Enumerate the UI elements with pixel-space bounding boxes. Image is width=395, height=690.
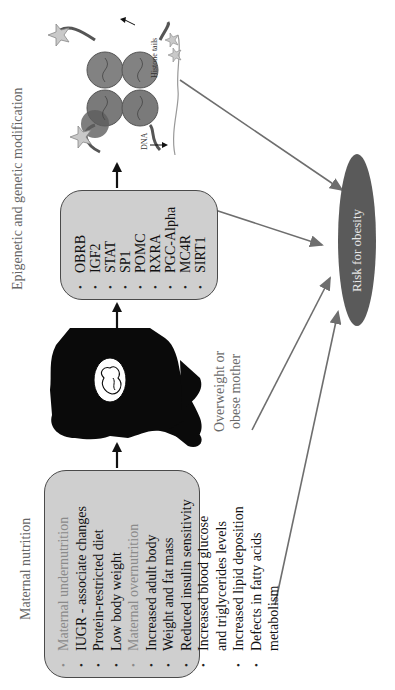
mother-label: Overweight or obese mother	[212, 351, 244, 432]
nutrition-box: Maternal undernutritionIUGR - associate …	[44, 470, 200, 678]
nutrition-list: Maternal undernutritionIUGR - associate …	[55, 479, 283, 673]
gene-item: IGF2	[88, 197, 103, 295]
arrow-genes-to-risk	[215, 210, 322, 245]
nutrition-item: Reduced insulin sensitivity	[178, 479, 196, 673]
pregnant-woman-silhouette-icon	[50, 328, 202, 447]
gene-item: RXRA	[148, 197, 163, 295]
nutrition-item: Maternal undernutrition	[55, 479, 73, 673]
gene-item: PGC-Alpha	[163, 197, 178, 295]
nutrition-item: Increased blood glucose	[195, 479, 213, 673]
arrow-nucleosome-to-risk	[180, 80, 342, 190]
nutrition-item: metabolism	[265, 479, 283, 673]
dna-label: DNA	[140, 133, 149, 150]
nutrition-item: Increased lipid deposition	[230, 479, 248, 673]
nutrition-item: IUGR - associate changes	[73, 479, 91, 673]
nutrition-item: and triglycerides levels	[213, 479, 231, 673]
gene-item: SP1	[118, 197, 133, 295]
genes-box: OBRBIGF2STATSP1POMCRXRAPGC-AlphaMC4RSIRT…	[60, 190, 218, 300]
figure-canvas: Maternal nutrition Maternal undernutriti…	[0, 0, 395, 690]
gene-item: MC4R	[178, 197, 193, 295]
mother-label-line2: obese mother	[228, 351, 244, 432]
gene-item: SIRT1	[193, 197, 208, 295]
nucleosome-histone-icon	[48, 17, 181, 155]
genes-title: Epigenetic and genetic modification	[10, 87, 26, 290]
gene-item: OBRB	[73, 197, 88, 295]
nutrition-item: Protein-restricted diet	[90, 479, 108, 673]
gene-item: STAT	[103, 197, 118, 295]
nutrition-item: Weight and fat mass	[160, 479, 178, 673]
nutrition-item: Low body weight	[108, 479, 126, 673]
histone-tails-label: Histone tails	[150, 38, 159, 78]
nutrition-item: Maternal overnutrition	[125, 479, 143, 673]
nutrition-item: Defects in fatty acids	[248, 479, 266, 673]
nutrition-title: Maternal nutrition	[18, 518, 34, 620]
mother-label-line1: Overweight or	[212, 351, 228, 432]
gene-item: POMC	[133, 197, 148, 295]
nutrition-item: Increased adult body	[143, 479, 161, 673]
risk-label: Risk for obesity	[349, 209, 365, 292]
genes-list: OBRBIGF2STATSP1POMCRXRAPGC-AlphaMC4RSIRT…	[73, 197, 208, 295]
arrow-nutrition-to-risk	[275, 312, 338, 605]
